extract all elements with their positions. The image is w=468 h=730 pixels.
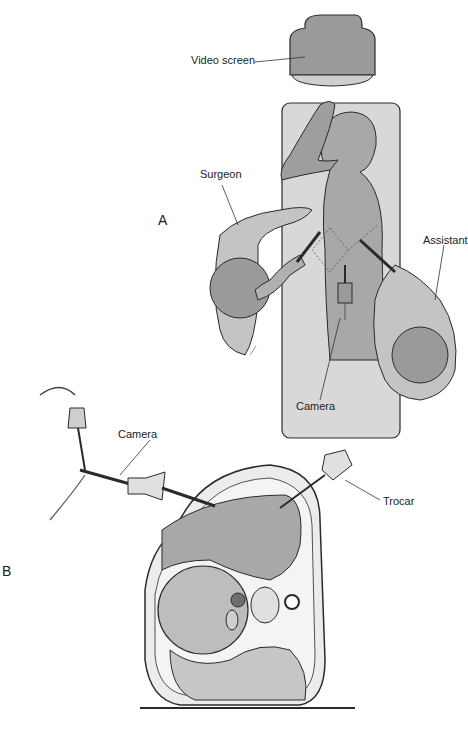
thorax-cross-section — [140, 465, 355, 708]
panel-label-a: A — [158, 212, 167, 228]
video-screen-illustration — [255, 15, 375, 86]
panel-label-b: B — [2, 563, 11, 579]
label-surgeon: Surgeon — [200, 168, 242, 180]
label-trocar: Trocar — [383, 495, 414, 507]
label-video-screen: Video screen — [191, 54, 255, 66]
camera-b-instrument — [40, 388, 215, 521]
illustration — [0, 0, 468, 730]
label-assistant: Assistant — [423, 234, 468, 246]
label-camera-b: Camera — [118, 428, 157, 440]
label-camera-a: Camera — [296, 400, 335, 412]
